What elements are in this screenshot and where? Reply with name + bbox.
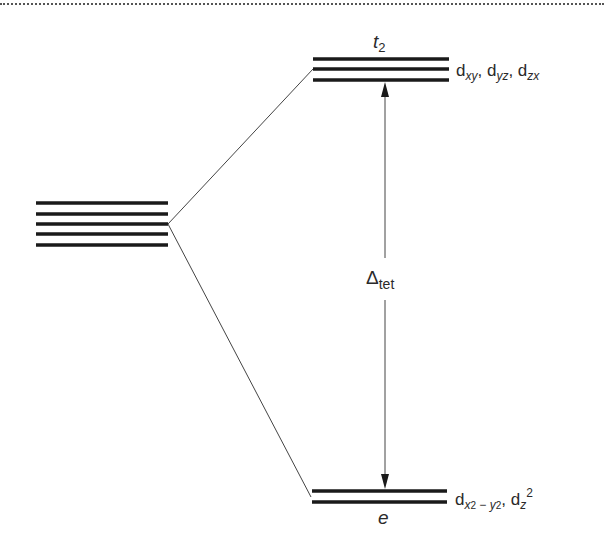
t2-symmetry-label: t2 [373,32,386,54]
e-symbol: e [378,507,389,528]
degenerate-levels [36,203,168,245]
orbital-xy-subscript: xy [465,69,477,83]
connector-lines [168,69,313,497]
separator: , [501,490,510,509]
orbital-x2-y2-subscript: x2 − y2 [464,498,501,512]
e-levels [312,491,447,502]
t2-orbital-labels: dxy, dyz, dzx [456,62,539,82]
delta-symbol: Δ [366,267,379,288]
splitting-label: Δtet [366,268,394,291]
t2-levels [313,59,449,80]
separator: , [477,61,486,80]
arrow-head-up-icon [381,82,389,97]
arrow-head-down-icon [381,474,389,489]
orbital-d: d [487,61,496,80]
t2-subscript: 2 [378,40,385,55]
orbital-zx-subscript: zx [527,69,539,83]
e-orbital-labels: dx2 − y2, dz2 [455,487,533,511]
separator: , [508,61,517,80]
orbital-d: d [518,61,527,80]
e-symmetry-label: e [378,508,389,527]
orbital-z2-power: 2 [526,486,533,500]
orbital-d: d [511,490,520,509]
orbital-z2-subscript: z [520,498,526,512]
delta-subscript: tet [379,276,395,292]
orbital-yz-subscript: yz [496,69,508,83]
sub-minus: − [476,498,490,512]
